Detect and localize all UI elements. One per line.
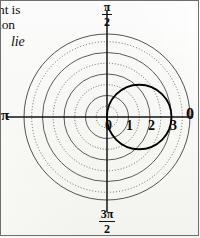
fraction-pi-over-2: π 2 bbox=[102, 1, 113, 28]
fraction-numerator: π bbox=[102, 1, 113, 13]
angle-label-pi: π bbox=[1, 108, 9, 123]
fraction-denominator: 2 bbox=[99, 223, 116, 235]
radial-tick-0: 0 bbox=[105, 119, 112, 133]
angle-label-zero: 0 bbox=[186, 106, 194, 122]
radial-tick-3: 3 bbox=[170, 119, 177, 133]
text-fragments: nt is ion lie bbox=[0, 2, 66, 49]
text-fragment-line-2: ion bbox=[0, 17, 66, 32]
fraction-3pi-over-2: 3π 2 bbox=[99, 208, 116, 235]
text-fragment-line-3: lie bbox=[11, 34, 66, 50]
figure-page: 0 1 2 3 π 2 3π 2 π 0 nt is ion lie bbox=[0, 0, 200, 238]
radial-tick-2: 2 bbox=[148, 119, 155, 133]
fraction-denominator: 2 bbox=[102, 16, 113, 28]
fraction-numerator: 3π bbox=[99, 208, 116, 220]
angle-label-3pi-over-2: 3π 2 bbox=[93, 208, 121, 236]
text-fragment-line-1: nt is bbox=[0, 2, 66, 17]
angle-label-pi-over-2: π 2 bbox=[96, 1, 118, 29]
radial-tick-1: 1 bbox=[126, 119, 133, 133]
